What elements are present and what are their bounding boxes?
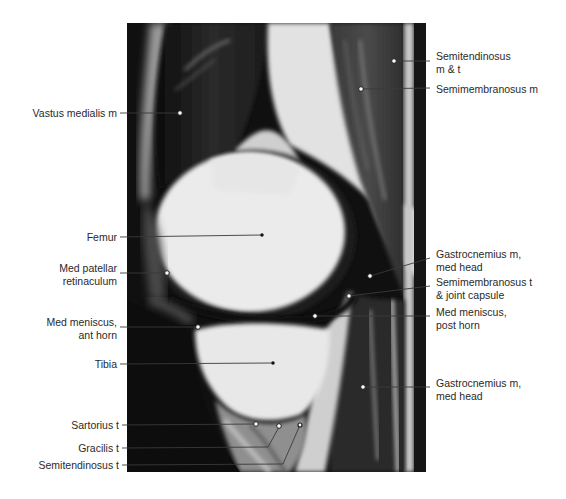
label-text: Sartorius t (71, 419, 119, 432)
label-text: Med meniscus, (46, 316, 117, 329)
marker-femur (260, 233, 263, 236)
label-text: Femur (87, 231, 117, 244)
marker-vastus-medialis (178, 111, 183, 116)
label-text: med head (436, 261, 521, 274)
label-semitendinosus-t: Semitendinosus t (38, 459, 119, 472)
label-med-meniscus-post-horn: Med meniscus, post horn (436, 306, 507, 331)
label-vastus-medialis: Vastus medialis m (33, 107, 117, 120)
marker-semitendinosus-m-t (392, 59, 397, 64)
marker-semimembranosus-t (347, 294, 352, 299)
marker-med-patellar-retinaculum (165, 271, 170, 276)
marker-semimembranosus-m (359, 87, 364, 92)
label-text: Semitendinosus t (38, 459, 119, 472)
label-semitendinosus-m-t: Semitendinosus m & t (436, 50, 511, 75)
marker-semitendinosus-t (298, 423, 302, 427)
marker-gastrocnemius-upper (368, 274, 373, 279)
label-text: m & t (436, 63, 511, 76)
marker-tibia (271, 361, 274, 364)
label-text: post horn (436, 319, 507, 332)
label-text: Semimembranosus t (436, 276, 532, 289)
label-text: Semimembranosus m (436, 83, 538, 96)
label-gastrocnemius-upper: Gastrocnemius m, med head (436, 248, 521, 273)
label-text: Tibia (95, 358, 117, 371)
label-text: retinaculum (59, 275, 117, 288)
label-text: Gastrocnemius m, (436, 377, 521, 390)
marker-sartorius-t (254, 422, 259, 427)
marker-gracilis-t (277, 424, 282, 429)
label-text: Semitendinosus (436, 50, 511, 63)
label-tibia: Tibia (95, 358, 117, 371)
marker-gastrocnemius-lower (361, 385, 366, 390)
label-gracilis-t: Gracilis t (78, 442, 119, 455)
label-text: Vastus medialis m (33, 107, 117, 120)
mri-image (127, 23, 426, 472)
label-text: med head (436, 390, 521, 403)
marker-med-meniscus-post-horn (313, 314, 318, 319)
label-sartorius-t: Sartorius t (71, 419, 119, 432)
label-semimembranosus-t-joint-capsule: Semimembranosus t & joint capsule (436, 276, 532, 301)
label-text: Med patellar (59, 262, 117, 275)
label-text: Gracilis t (78, 442, 119, 455)
label-text: ant horn (46, 329, 117, 342)
label-femur: Femur (87, 231, 117, 244)
label-text: Med meniscus, (436, 306, 507, 319)
label-text: & joint capsule (436, 289, 532, 302)
marker-med-meniscus-ant-horn (196, 325, 201, 330)
label-semimembranosus-m: Semimembranosus m (436, 83, 538, 96)
label-gastrocnemius-lower: Gastrocnemius m, med head (436, 377, 521, 402)
label-med-meniscus-ant-horn: Med meniscus, ant horn (46, 316, 117, 341)
label-text: Gastrocnemius m, (436, 248, 521, 261)
label-med-patellar-retinaculum: Med patellar retinaculum (59, 262, 117, 287)
